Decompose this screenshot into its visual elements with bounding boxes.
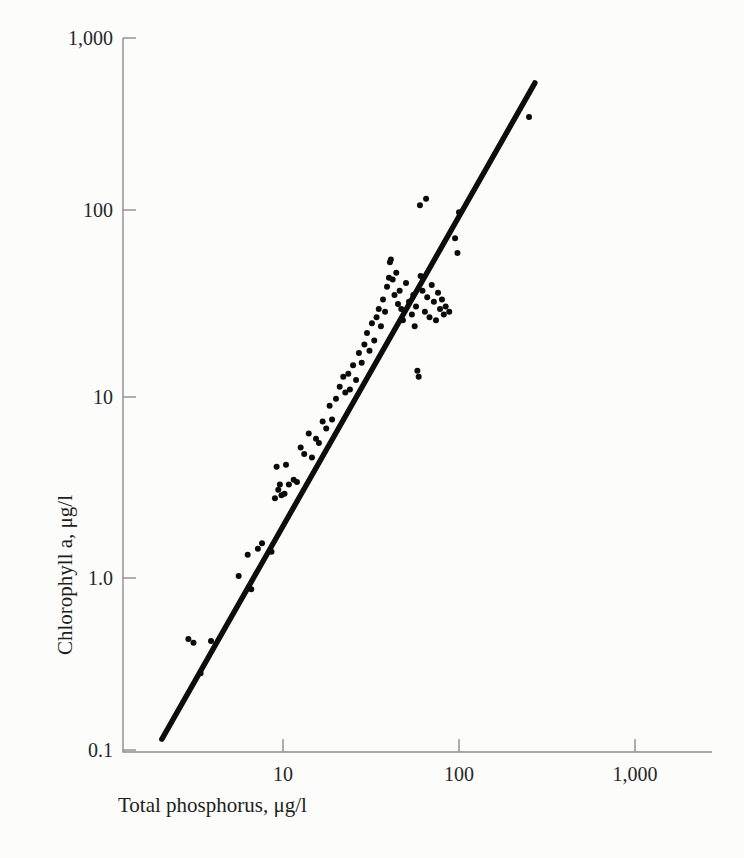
data-point <box>378 323 384 329</box>
data-point <box>259 540 265 546</box>
data-point <box>380 296 386 302</box>
data-point <box>398 306 404 312</box>
data-point <box>272 495 278 501</box>
y-tick-label-0-1: 0.1 <box>88 739 113 761</box>
data-point <box>418 273 424 279</box>
data-point <box>208 638 214 644</box>
data-point <box>526 114 532 120</box>
y-tick-label-100: 100 <box>83 199 113 221</box>
data-point <box>301 451 307 457</box>
axis-spines <box>123 38 712 752</box>
data-point <box>356 350 362 356</box>
data-point <box>388 256 394 262</box>
data-point <box>400 317 406 323</box>
data-point <box>320 419 326 425</box>
data-point <box>268 549 274 555</box>
x-tick-label-100: 100 <box>444 763 474 785</box>
data-point <box>443 304 449 310</box>
x-tick-label-1000: 1,000 <box>613 763 658 785</box>
data-point <box>427 314 433 320</box>
data-point <box>441 311 447 317</box>
data-point <box>437 306 443 312</box>
data-point <box>323 426 329 432</box>
data-point <box>412 323 418 329</box>
data-point <box>274 464 280 470</box>
data-point <box>423 196 429 202</box>
data-point <box>364 330 370 336</box>
y-axis-title: Chlorophyll a, μg/l <box>53 495 77 655</box>
data-point <box>366 348 372 354</box>
data-point <box>382 309 388 315</box>
data-point <box>413 304 419 310</box>
data-point <box>306 430 312 436</box>
data-point <box>255 546 261 552</box>
data-point <box>345 371 351 377</box>
data-point <box>456 209 462 215</box>
data-point <box>452 235 458 241</box>
data-point <box>391 292 397 298</box>
data-point <box>347 387 353 393</box>
data-point <box>374 314 380 320</box>
data-point <box>340 374 346 380</box>
data-point <box>309 454 315 460</box>
y-tick-label-1: 1.0 <box>88 567 113 589</box>
data-point <box>446 309 452 315</box>
x-axis-tickmarks <box>283 739 635 752</box>
regression-line <box>162 83 535 739</box>
x-axis-title: Total phosphorus, μg/l <box>118 793 307 817</box>
data-point <box>369 320 375 326</box>
data-point <box>316 440 322 446</box>
data-point <box>419 288 425 294</box>
data-point <box>433 317 439 323</box>
data-point <box>409 311 415 317</box>
data-point <box>390 276 396 282</box>
data-point <box>429 282 435 288</box>
data-point <box>275 487 281 493</box>
data-point <box>410 292 416 298</box>
data-point <box>329 416 335 422</box>
data-point <box>406 299 412 305</box>
data-point <box>439 296 445 302</box>
data-point <box>337 384 343 390</box>
data-point <box>361 341 367 347</box>
data-point <box>376 306 382 312</box>
data-point <box>424 294 430 300</box>
data-point <box>286 482 292 488</box>
data-point <box>417 202 423 208</box>
data-point <box>431 299 437 305</box>
figure-container: 1,000 100 10 1.0 0.1 10 100 1,000 Total … <box>0 0 744 858</box>
data-point <box>350 362 356 368</box>
data-point <box>359 360 365 366</box>
data-point <box>327 403 333 409</box>
data-point <box>454 250 460 256</box>
data-point <box>416 374 422 380</box>
data-point <box>395 301 401 307</box>
data-point <box>282 491 288 497</box>
y-tick-label-10: 10 <box>93 386 113 408</box>
data-point <box>333 396 339 402</box>
data-point <box>248 586 254 592</box>
data-point <box>198 670 204 676</box>
scatter-plot: 1,000 100 10 1.0 0.1 10 100 1,000 Total … <box>0 0 744 858</box>
data-point <box>283 462 289 468</box>
data-point <box>414 368 420 374</box>
data-point <box>397 288 403 294</box>
data-point <box>393 270 399 276</box>
y-axis-tickmarks <box>123 38 136 750</box>
data-point <box>422 309 428 315</box>
data-point <box>298 445 304 451</box>
y-tick-label-1000: 1,000 <box>68 27 113 49</box>
data-point <box>185 636 191 642</box>
data-point <box>371 337 377 343</box>
data-point <box>353 377 359 383</box>
data-point <box>403 280 409 286</box>
data-point <box>277 482 283 488</box>
data-point <box>236 573 242 579</box>
data-point <box>190 640 196 646</box>
data-point <box>435 290 441 296</box>
data-point <box>245 552 251 558</box>
x-tick-label-10: 10 <box>273 763 293 785</box>
data-point <box>384 284 390 290</box>
data-point <box>294 479 300 485</box>
